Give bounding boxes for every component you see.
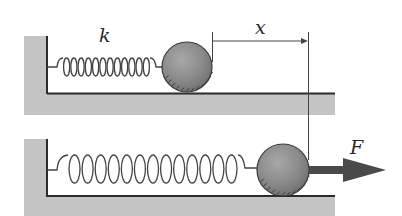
force-arrow [309, 158, 386, 182]
floor-block-bottom [24, 197, 335, 216]
force-label: F [350, 138, 363, 157]
spring-constant-label: k [99, 26, 111, 45]
spring-bottom [47, 155, 257, 183]
panel-equilibrium [24, 32, 335, 160]
ball-top [162, 42, 212, 92]
ball-bottom [257, 144, 309, 196]
spring-mass-diagram: k x F [0, 0, 402, 216]
displacement-label: x [255, 18, 266, 37]
spring-top [47, 58, 162, 76]
floor-block-top [24, 94, 335, 115]
diagram-svg [0, 0, 402, 216]
panel-stretched [24, 139, 386, 216]
